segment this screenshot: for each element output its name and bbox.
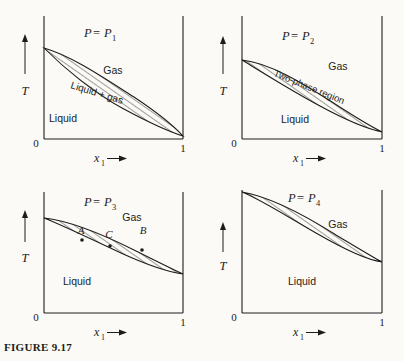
- x-axis-label-group: x 1: [93, 325, 127, 342]
- region-label-liquid: Liquid: [49, 112, 77, 124]
- point-label-c: C: [105, 228, 113, 240]
- t-axis-arrow-icon: [22, 210, 28, 242]
- region-label-gas: Gas: [328, 60, 347, 72]
- y-axis-label: T: [220, 259, 228, 273]
- region-label-gas: Gas: [103, 64, 122, 76]
- x-axis-label: x: [292, 151, 299, 165]
- t-axis-arrow-icon: [220, 36, 226, 74]
- pressure-label-sub: P: [307, 191, 316, 205]
- two-phase-lens: [242, 60, 382, 132]
- right-tick-label: 1: [379, 142, 385, 154]
- pressure-label-index: 4: [316, 198, 321, 208]
- panel-p2: T 0 1 x 1 P = P 2 Gas Liquid Two-phase r…: [202, 0, 404, 172]
- x-axis-label-group: x 1: [292, 325, 326, 342]
- pressure-label-eq: =: [93, 26, 100, 40]
- panel-p2-plot: T 0 1 x 1 P = P 2 Gas Liquid Two-phase r…: [202, 0, 404, 172]
- pressure-label-p3: P = P 3: [83, 195, 116, 212]
- figure-caption: FIGURE 9.17: [4, 341, 72, 353]
- panel-p1-plot: T 0 1 x 1 P = P 1 Gas Liquid Liquid + ga…: [0, 0, 202, 172]
- pressure-label-p: P: [83, 26, 92, 40]
- pressure-label-p: P: [281, 29, 290, 43]
- x-axis-label-group: x 1: [93, 151, 127, 168]
- pressure-label-sub: P: [103, 195, 112, 209]
- region-label-liquid: Liquid: [63, 275, 91, 287]
- pressure-label-p2: P = P 2: [281, 29, 314, 46]
- origin-tick-label: 0: [33, 311, 39, 323]
- region-label-gas: Gas: [328, 218, 347, 230]
- panel-p3-plot: T 0 1 x 1 P = P 3 Gas Liquid A: [0, 180, 202, 342]
- panel-p4: T 0 1 x 1 P = P 4 Gas Liquid: [202, 180, 404, 342]
- pressure-label-sub: P: [103, 26, 112, 40]
- pressure-label-p4: P = P 4: [287, 191, 321, 208]
- figure-container: T 0 1 x 1 P = P 1 Gas Liquid Liquid + ga…: [0, 0, 404, 361]
- pressure-label-p: P: [83, 195, 92, 209]
- panel-p3: T 0 1 x 1 P = P 3 Gas Liquid A: [0, 180, 202, 342]
- pressure-label-p1: P = P 1: [83, 26, 116, 43]
- region-label-liquid: Liquid: [281, 113, 309, 125]
- panel-p4-plot: T 0 1 x 1 P = P 4 Gas Liquid: [202, 180, 404, 342]
- x-axis-subscript: 1: [300, 333, 304, 342]
- panel-p1: T 0 1 x 1 P = P 1 Gas Liquid Liquid + ga…: [0, 0, 202, 172]
- y-axis-label: T: [220, 84, 228, 98]
- two-phase-lens: [44, 218, 183, 274]
- x-axis-label: x: [93, 325, 100, 339]
- y-axis-label: T: [22, 84, 30, 98]
- pressure-label-index: 2: [310, 36, 314, 46]
- pressure-label-eq: =: [297, 191, 304, 205]
- x-axis-label-group: x 1: [292, 151, 326, 168]
- point-label-b: B: [140, 224, 147, 236]
- x-axis-subscript: 1: [300, 159, 304, 168]
- pressure-label-index: 1: [112, 33, 116, 43]
- x-axis-subscript: 1: [101, 333, 105, 342]
- y-axis-label: T: [22, 251, 30, 265]
- right-tick-label: 1: [180, 316, 186, 328]
- region-label-liquid: Liquid: [288, 275, 316, 287]
- origin-tick-label: 0: [231, 311, 237, 323]
- point-label-a: A: [77, 224, 85, 236]
- pressure-label-eq: =: [93, 195, 100, 209]
- pressure-label-p: P: [287, 191, 296, 205]
- point-marker-b: B: [140, 224, 147, 252]
- point-marker-a: A: [77, 224, 85, 242]
- right-tick-label: 1: [180, 142, 186, 154]
- origin-tick-label: 0: [231, 137, 237, 149]
- origin-tick-label: 0: [33, 137, 39, 149]
- pressure-label-index: 3: [112, 202, 116, 212]
- region-label-gas: Gas: [122, 211, 141, 223]
- pressure-label-eq: =: [291, 29, 298, 43]
- x-axis-label: x: [93, 151, 100, 165]
- x-axis-subscript: 1: [101, 159, 105, 168]
- t-axis-arrow-icon: [220, 222, 226, 252]
- right-tick-label: 1: [379, 316, 385, 328]
- t-axis-arrow-icon: [22, 34, 28, 74]
- x-axis-label: x: [292, 325, 299, 339]
- pressure-label-sub: P: [301, 29, 310, 43]
